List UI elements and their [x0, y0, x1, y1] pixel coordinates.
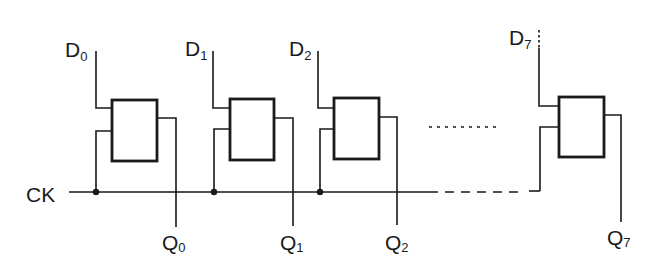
clock-label: CK — [26, 183, 55, 206]
output-label-q0: Q0 — [162, 231, 186, 255]
input-label-d7: D7 — [509, 26, 531, 52]
input-label-d0: D0 — [65, 38, 87, 64]
output-wire — [274, 118, 293, 226]
output-label-q7: Q7 — [607, 226, 631, 250]
register-circuit-diagram: CK D0 Q0 D1 Q1 D2 — [0, 0, 647, 265]
d-flip-flop-box — [334, 98, 379, 159]
flip-flop-stage-2: D2 Q2 — [289, 37, 409, 255]
input-label-d2: D2 — [289, 37, 311, 63]
data-input-wire — [539, 48, 559, 106]
d-flip-flop-box — [559, 97, 604, 157]
output-wire — [604, 115, 621, 222]
clock-input-wire — [320, 129, 334, 192]
clock-input-wire — [540, 127, 559, 191]
flip-flop-stage-7: D7 Q7 — [509, 26, 631, 250]
d-flip-flop-box — [112, 100, 157, 161]
junction-dot — [93, 189, 99, 195]
data-input-wire — [96, 51, 112, 108]
output-label-q1: Q1 — [280, 231, 304, 255]
clock-input-wire — [96, 131, 112, 192]
d-flip-flop-box — [230, 99, 274, 160]
clock-bus: CK — [26, 183, 540, 206]
output-wire — [157, 118, 176, 227]
input-label-d1: D1 — [185, 37, 207, 63]
clock-input-wire — [214, 129, 230, 192]
flip-flop-stage-1: D1 Q1 — [185, 37, 304, 255]
output-label-q2: Q2 — [385, 231, 409, 255]
junction-dot — [211, 189, 217, 195]
flip-flop-stage-0: D0 Q0 — [65, 38, 186, 255]
junction-dot — [317, 189, 323, 195]
output-wire — [379, 117, 397, 225]
data-input-wire — [213, 51, 230, 108]
data-input-wire — [318, 51, 334, 108]
